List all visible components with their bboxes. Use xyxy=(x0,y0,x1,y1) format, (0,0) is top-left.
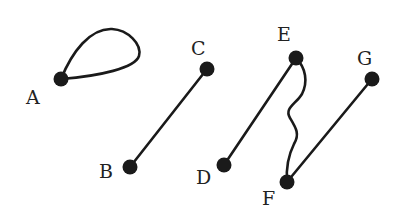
label-A: A xyxy=(25,86,40,108)
edge-loop-A xyxy=(61,29,139,79)
label-B: B xyxy=(99,160,113,182)
label-D: D xyxy=(196,166,211,188)
node-D xyxy=(217,158,232,173)
node-C xyxy=(200,62,215,77)
label-F: F xyxy=(262,187,275,209)
node-B xyxy=(123,160,138,175)
node-G xyxy=(365,72,380,87)
edge-B-C xyxy=(130,69,207,167)
node-E xyxy=(289,51,304,66)
label-G: G xyxy=(357,47,372,69)
node-A xyxy=(54,72,69,87)
graph-diagram: A B C D E F G xyxy=(0,0,401,223)
label-C: C xyxy=(191,37,206,59)
node-F xyxy=(280,175,295,190)
edge-D-E xyxy=(224,58,296,165)
edge-F-G xyxy=(287,79,372,182)
label-E: E xyxy=(277,23,291,45)
